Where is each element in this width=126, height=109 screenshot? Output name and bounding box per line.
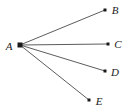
star-graph-diagram: ABCDE [0,0,126,109]
node-label-b: B [112,5,119,16]
edge-layer [20,10,108,100]
diagram-canvas [0,0,126,109]
node-label-a: A [6,41,13,52]
node-label-d: D [111,67,119,78]
node-point-b [104,9,107,12]
node-point-d [104,70,107,73]
node-label-c: C [114,39,121,50]
node-label-e: E [96,96,103,107]
node-point-e [88,99,91,102]
node-layer [18,9,110,102]
edge-ab [20,10,105,45]
node-point-c [107,43,110,46]
edge-ad [20,45,105,71]
edge-ae [20,45,89,100]
node-point-a [18,43,23,48]
edge-ac [20,44,108,45]
